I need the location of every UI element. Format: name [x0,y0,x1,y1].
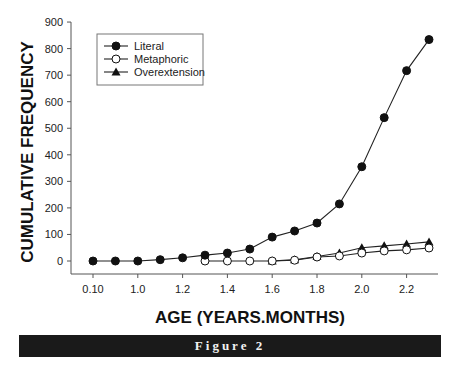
y-tick-label: 700 [45,69,63,81]
filled-circle-marker [358,163,366,171]
open-circle-marker [425,244,433,252]
filled-circle-marker [291,227,299,235]
open-circle-marker [380,247,388,255]
filled-circle-marker [403,67,411,75]
x-tick-label: 1.4 [220,283,235,295]
y-axis-title: CUMULATIVE FREQUENCY [18,41,37,263]
open-circle-marker [223,257,231,265]
y-tick-label: 100 [45,228,63,240]
open-circle-marker [246,257,254,265]
y-tick-label: 400 [45,149,63,161]
y-tick-label: 800 [45,43,63,55]
filled-circle-marker [89,257,97,265]
y-tick-label: 900 [45,16,63,28]
filled-circle-marker [246,245,254,253]
y-tick-label: 500 [45,122,63,134]
x-tick-label: 2.2 [399,283,414,295]
legend-label: Metaphoric [134,53,189,65]
filled-circle-marker [201,251,209,259]
filled-circle-marker [268,233,276,241]
x-axis: 0.101.01.21.41.61.82.02.2 [71,274,438,295]
filled-circle-marker [380,114,388,122]
x-tick-label: 1.0 [130,283,145,295]
filled-circle-marker [156,256,164,264]
x-tick-label: 0.10 [82,283,103,295]
filled-circle-marker [313,219,321,227]
legend: LiteralMetaphoricOverextension [97,34,205,85]
x-tick-label: 1.8 [309,283,324,295]
x-tick-label: 1.6 [265,283,280,295]
x-axis-title: AGE (YEARS.MONTHS) [155,308,345,327]
open-circle-marker [335,252,343,260]
open-circle-marker [403,246,411,254]
filled-circle-marker [111,257,119,265]
filled-circle-marker [112,42,120,50]
open-circle-marker [291,256,299,264]
open-circle-marker [313,253,321,261]
y-axis: 0100200300400500600700800900 [45,16,71,274]
figure-banner: Figure 2 [19,335,441,357]
filled-circle-marker [134,257,142,265]
line-chart: 0100200300400500600700800900 0.101.01.21… [0,0,453,330]
y-tick-label: 600 [45,96,63,108]
y-tick-label: 200 [45,202,63,214]
open-circle-marker [268,257,276,265]
filled-circle-marker [335,200,343,208]
filled-circle-marker [425,36,433,44]
open-circle-marker [112,55,120,63]
series-metaphoric [201,244,433,265]
legend-label: Literal [134,40,164,52]
y-tick-label: 300 [45,175,63,187]
filled-circle-marker [179,254,187,262]
open-circle-marker [358,249,366,257]
y-tick-label: 0 [57,255,63,267]
x-tick-label: 1.2 [175,283,190,295]
x-tick-label: 2.0 [354,283,369,295]
legend-label: Overextension [134,66,205,78]
filled-circle-marker [223,249,231,257]
